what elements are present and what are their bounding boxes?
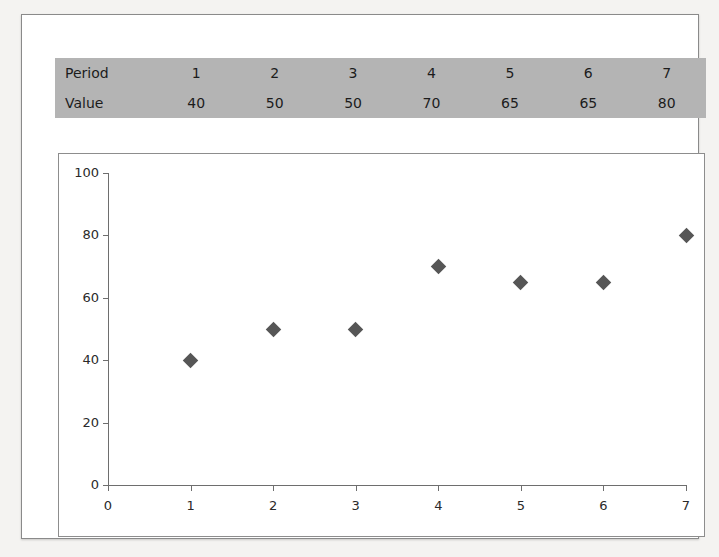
data-point-6 [596,274,612,290]
value-cell-4: 70 [392,88,470,118]
y-tick-label-80: 80 [59,228,99,241]
figure-frame: Period 1 2 3 4 5 6 7 Value 40 50 50 [21,14,699,539]
row-label-period: Period [55,58,157,88]
period-cell-4: 4 [392,58,470,88]
x-tick-2 [273,485,274,491]
y-tick-40 [103,360,109,361]
data-point-1 [183,352,199,368]
table-row: Period 1 2 3 4 5 6 7 [55,58,706,88]
y-tick-label-60: 60 [59,291,99,304]
x-tick-1 [191,485,192,491]
y-axis-line [108,173,109,486]
x-tick-3 [356,485,357,491]
data-point-5 [513,274,529,290]
x-tick-6 [603,485,604,491]
data-point-4 [431,259,447,275]
y-tick-label-20: 20 [59,416,99,429]
period-cell-5: 5 [471,58,549,88]
data-point-7 [678,228,694,244]
x-tick-label-2: 2 [258,498,288,513]
period-cell-6: 6 [549,58,627,88]
period-cell-1: 1 [157,58,235,88]
x-axis-line [108,485,686,486]
period-value-table: Period 1 2 3 4 5 6 7 Value 40 50 50 [55,58,706,118]
data-table: Period 1 2 3 4 5 6 7 Value 40 50 50 [55,58,706,118]
period-cell-7: 7 [628,58,706,88]
row-label-value: Value [55,88,157,118]
y-tick-80 [103,235,109,236]
y-tick-label-100: 100 [59,166,99,179]
period-cell-3: 3 [314,58,392,88]
scatter-chart: 020406080100 01234567 [58,153,705,537]
x-tick-label-4: 4 [423,498,453,513]
x-tick-label-1: 1 [176,498,206,513]
period-cell-2: 2 [235,58,313,88]
table-row: Value 40 50 50 70 65 65 80 [55,88,706,118]
x-tick-label-6: 6 [588,498,618,513]
y-tick-60 [103,298,109,299]
value-cell-3: 50 [314,88,392,118]
table-body: Period 1 2 3 4 5 6 7 Value 40 50 50 [55,58,706,118]
scanned-page: Period 1 2 3 4 5 6 7 Value 40 50 50 [0,0,719,557]
y-tick-label-40: 40 [59,353,99,366]
x-tick-label-0: 0 [93,498,123,513]
value-cell-7: 80 [628,88,706,118]
y-tick-label-0: 0 [59,478,99,491]
value-cell-2: 50 [235,88,313,118]
data-point-2 [265,321,281,337]
y-tick-100 [103,173,109,174]
x-tick-label-5: 5 [506,498,536,513]
x-tick-7 [686,485,687,491]
data-point-3 [348,321,364,337]
value-cell-6: 65 [549,88,627,118]
value-cell-1: 40 [157,88,235,118]
x-tick-4 [438,485,439,491]
value-cell-5: 65 [471,88,549,118]
plot-area: 020406080100 01234567 [59,154,704,536]
x-tick-label-7: 7 [671,498,701,513]
y-tick-20 [103,423,109,424]
x-tick-0 [108,485,109,491]
x-tick-5 [521,485,522,491]
x-tick-label-3: 3 [341,498,371,513]
